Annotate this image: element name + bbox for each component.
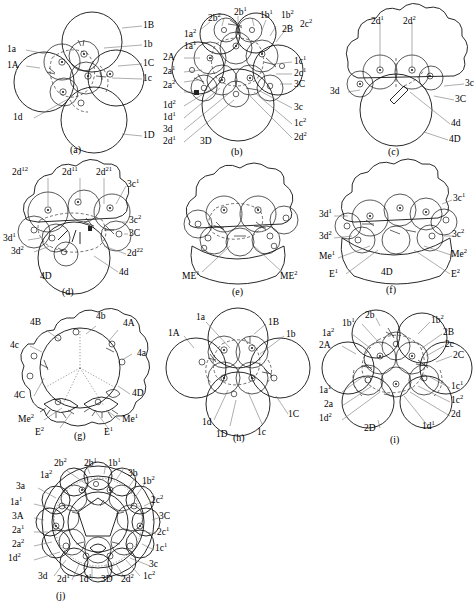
label-a-1a: 1a <box>7 45 16 55</box>
panel-h-leaders <box>184 322 288 426</box>
label-h-1c: 1c <box>257 428 266 438</box>
label-b-3C: 3C <box>294 80 305 90</box>
label-i-2b: 2b <box>365 311 375 321</box>
label-j-3A: 3A <box>12 512 24 522</box>
label-b-2a1: 2a1 <box>163 67 175 77</box>
panel-a-cells <box>14 12 144 153</box>
label-f-4D: 4D <box>381 268 393 278</box>
label-h-1D: 1D <box>216 430 228 440</box>
label-b-2b2: 2b2 <box>208 14 221 24</box>
panel-i: 1b1 2b 1a2 2A 1a1 2a 1d2 1b2 2B 2c 2C 1c… <box>318 300 476 448</box>
label-j-2a2: 2a2 <box>12 540 24 550</box>
label-g-4a: 4a <box>137 349 146 359</box>
label-c-4D: 4D <box>449 135 461 145</box>
label-f-E2: E2 <box>451 270 460 280</box>
label-j-3b: 3b <box>128 469 138 479</box>
label-c-2d2: 2d2 <box>403 17 416 27</box>
caption-j: (j) <box>56 590 65 601</box>
panel-j: 2b2 2b1 1b1 1a2 3b 1b2 3a 1a1 3A 2a1 2a2… <box>0 448 180 607</box>
label-b-1d1: 1d1 <box>163 113 176 123</box>
label-b-2c2: 2c2 <box>300 20 312 30</box>
label-g-Me2: Me2 <box>18 415 34 425</box>
label-f-E1: E1 <box>329 270 338 280</box>
panel-a-leaders <box>26 26 142 136</box>
label-b-2B: 2B <box>282 25 293 35</box>
panel-e-cells <box>184 163 298 284</box>
label-b-2d2: 2d2 <box>294 133 307 143</box>
panel-d: 2d12 2d11 2d21 3c1 3c2 3C 2d22 4d 3d1 3d… <box>0 160 158 300</box>
label-d-3d1: 3d1 <box>3 234 16 244</box>
label-j-1a2: 1a2 <box>40 471 52 481</box>
label-j-1c1: 1c1 <box>155 544 167 554</box>
label-i-2D: 2D <box>364 424 376 434</box>
label-j-1a1: 1a1 <box>10 498 22 508</box>
caption-d: (d) <box>62 286 74 297</box>
label-b-1b2: 1b2 <box>281 11 294 21</box>
label-c-4d: 4d <box>451 119 461 129</box>
label-j-2a1: 2a1 <box>12 526 24 536</box>
label-g-4D: 4D <box>132 389 144 399</box>
label-h-1C: 1C <box>288 410 299 420</box>
label-h-1a: 1a <box>196 313 205 323</box>
label-h-1b: 1b <box>286 330 296 340</box>
label-d-2d22: 2d22 <box>127 249 143 259</box>
label-j-2b1: 2b1 <box>84 459 97 469</box>
label-d-4D: 4D <box>40 272 52 282</box>
label-a-1C: 1C <box>143 59 154 69</box>
label-i-1b1: 1b1 <box>342 319 355 329</box>
figure-plate: 1B 1b 1C 1c 1D 1a 1A 1d (a) <box>0 0 476 607</box>
label-j-3D: 3D <box>101 575 113 585</box>
label-a-1d: 1d <box>13 113 23 123</box>
label-d-3c1: 3c1 <box>127 180 139 190</box>
label-a-1A: 1A <box>7 61 19 71</box>
label-b-2b1: 2b1 <box>234 8 247 18</box>
label-d-3d2: 3d2 <box>11 247 24 257</box>
label-f-Me2: Me2 <box>451 250 467 260</box>
label-i-1a2: 1a2 <box>322 329 334 339</box>
label-a-1b: 1b <box>143 40 153 50</box>
label-b-2d1: 2d1 <box>163 137 176 147</box>
label-j-2d1: 2d1 <box>57 575 70 585</box>
panel-e: ME1 ME2 (e) <box>158 160 318 300</box>
label-c-3d: 3d <box>330 87 340 97</box>
label-b-3D: 3D <box>200 137 212 147</box>
label-e-ME1: ME1 <box>182 272 200 282</box>
label-c-3c: 3c <box>465 79 474 89</box>
panel-d-cells <box>18 159 131 294</box>
label-j-3d: 3d <box>38 572 48 582</box>
label-f-3c1: 3c1 <box>453 194 465 204</box>
label-i-1c2: 1c2 <box>451 396 463 406</box>
label-j-3a: 3a <box>16 482 25 492</box>
caption-b: (b) <box>231 146 243 157</box>
label-i-1a1: 1a1 <box>319 386 331 396</box>
panel-f-cells <box>335 159 457 284</box>
label-j-2c2: 2c2 <box>151 496 163 506</box>
label-i-1d1: 1d1 <box>422 422 435 432</box>
label-f-3c2: 3c2 <box>452 230 464 240</box>
label-i-2a: 2a <box>324 400 333 410</box>
caption-c: (c) <box>388 146 399 157</box>
label-b-2A: 2A <box>163 53 175 63</box>
label-b-3c: 3c <box>294 103 303 113</box>
label-b-1c2: 1c2 <box>294 119 306 129</box>
label-j-3C: 3C <box>159 512 170 522</box>
label-f-3d1: 3d1 <box>319 210 332 220</box>
label-j-1b1: 1b1 <box>108 459 121 469</box>
label-d-2d12: 2d12 <box>12 168 28 178</box>
label-i-2d: 2d <box>451 410 461 420</box>
panel-d-leaders <box>28 178 128 272</box>
label-b-3d: 3d <box>163 125 173 135</box>
label-i-2c: 2c <box>445 340 454 350</box>
label-i-2A: 2A <box>319 341 331 351</box>
caption-g: (g) <box>74 430 86 441</box>
label-b-2c1: 2c1 <box>294 69 306 79</box>
label-c-2d1: 2d1 <box>371 17 384 27</box>
label-h-1d: 1d <box>202 418 212 428</box>
panel-g: 4B 4b 4A 4c 4a 4C 4D Me2 E2 Me1 E1 (g) <box>0 300 158 448</box>
label-j-1c2: 1c2 <box>143 572 155 582</box>
panel-f-leaders <box>334 200 454 274</box>
label-b-1a1: 1a1 <box>184 42 196 52</box>
label-j-1b2: 1b2 <box>142 477 155 487</box>
label-d-2d11: 2d11 <box>62 168 78 178</box>
label-b-2a2: 2a2 <box>163 81 175 91</box>
